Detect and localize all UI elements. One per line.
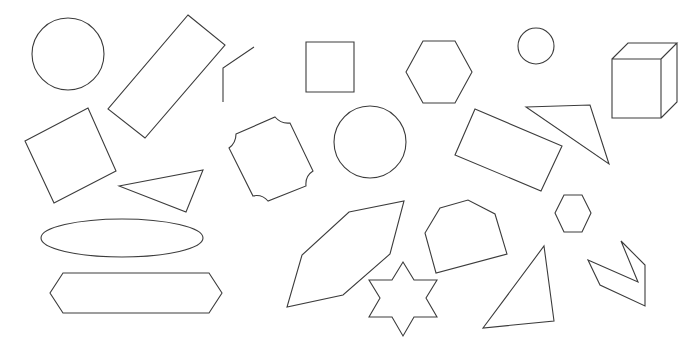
open-polyline-angle bbox=[223, 47, 254, 102]
triangle-left-middle bbox=[119, 170, 203, 212]
circle-large-left bbox=[32, 18, 104, 90]
circle-middle bbox=[334, 106, 406, 178]
triangle-right-top bbox=[526, 105, 609, 164]
irregular-hexagon bbox=[425, 200, 507, 273]
hexagon-top bbox=[406, 41, 472, 103]
six-point-star bbox=[369, 262, 437, 336]
triangle-bottom bbox=[483, 246, 554, 328]
notched-octagon bbox=[229, 117, 313, 201]
square-axis-aligned bbox=[306, 42, 354, 92]
circle-small bbox=[518, 28, 554, 64]
chevron-shape bbox=[588, 241, 645, 306]
slanted-hexagon bbox=[287, 201, 404, 307]
shapes-canvas bbox=[0, 0, 700, 353]
rotated-rectangle-tall bbox=[108, 15, 225, 138]
elongated-hexagon bbox=[50, 273, 222, 313]
ellipse-wide bbox=[41, 219, 203, 257]
hexagon-small bbox=[555, 195, 591, 232]
rotated-square-left bbox=[25, 108, 116, 203]
cube-3d bbox=[612, 43, 677, 118]
